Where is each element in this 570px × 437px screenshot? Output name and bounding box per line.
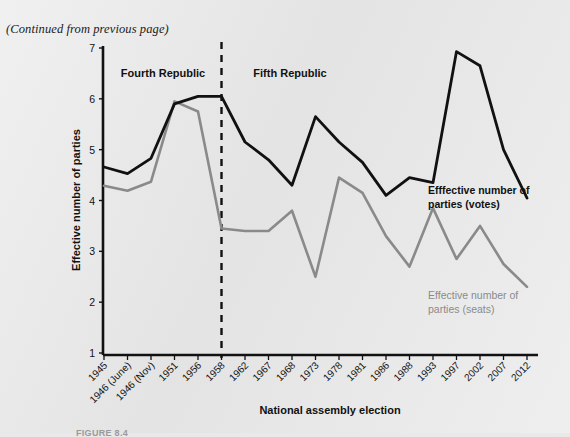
votes-annotation-line1: Efffective number of xyxy=(428,184,530,196)
x-axis-title: National assembly election xyxy=(259,404,400,416)
votes-annotation-line2: parties (votes) xyxy=(428,198,500,210)
x-tick-label: 1958 xyxy=(203,359,227,383)
x-tick-label: 1956 xyxy=(180,359,204,383)
y-tick-label: 7 xyxy=(89,42,95,54)
x-axis-ticks: 19451946 (June)1946 (Nov)195119561958196… xyxy=(86,355,533,405)
x-tick-label: 1993 xyxy=(415,359,439,383)
x-tick-label: 1962 xyxy=(227,359,251,383)
y-tick-label: 5 xyxy=(89,144,95,156)
y-tick-label: 2 xyxy=(89,296,95,308)
era-label-fifth-republic: Fifth Republic xyxy=(253,67,326,79)
x-tick-label: 1973 xyxy=(297,359,321,383)
x-tick-label: 1978 xyxy=(321,359,345,383)
y-axis-ticks: 1234567 xyxy=(89,42,103,359)
x-tick-label: 1967 xyxy=(250,359,274,383)
x-tick-label: 1968 xyxy=(274,359,298,383)
y-tick-label: 6 xyxy=(89,93,95,105)
x-tick-label: 2007 xyxy=(485,359,509,383)
x-tick-label: 2012 xyxy=(509,359,533,383)
y-axis-title: Effective number of parties xyxy=(70,129,82,271)
x-tick-label: 1951 xyxy=(156,359,180,383)
x-tick-label: 1981 xyxy=(344,359,368,383)
era-label-fourth-republic: Fourth Republic xyxy=(121,67,205,79)
y-tick-label: 3 xyxy=(89,245,95,257)
x-tick-label: 1997 xyxy=(438,359,462,383)
x-tick-label: 1988 xyxy=(391,359,415,383)
x-tick-label: 1986 xyxy=(368,359,392,383)
figure-caption: FIGURE 8.4 xyxy=(76,428,128,437)
seats-annotation-line1: Effective number of xyxy=(428,289,518,301)
y-tick-label: 1 xyxy=(89,347,95,359)
seats-annotation-line2: parties (seats) xyxy=(428,303,495,315)
x-tick-label: 2002 xyxy=(462,359,486,383)
y-tick-label: 4 xyxy=(89,195,95,207)
